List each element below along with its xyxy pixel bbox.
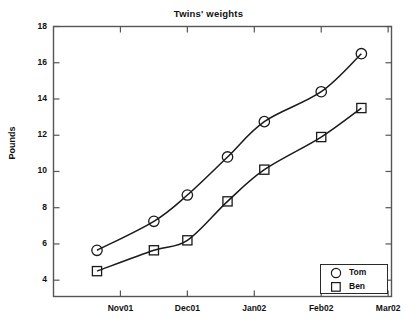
y-tick-label: 8: [25, 202, 47, 212]
x-tick-label: Dec01: [157, 303, 217, 313]
y-tick-label: 12: [25, 129, 47, 139]
data-point-tom-1: [149, 216, 159, 226]
y-tick-label: 14: [25, 93, 47, 103]
legend-item-ben[interactable]: Ben: [321, 280, 389, 294]
data-point-tom-6: [356, 48, 366, 58]
circle-marker-icon: [329, 267, 343, 279]
data-series-group: [92, 48, 367, 275]
y-tick-label: 16: [25, 57, 47, 67]
data-point-ben-0: [92, 267, 101, 276]
x-tick-label: Nov01: [90, 303, 150, 313]
data-point-tom-4: [259, 116, 269, 126]
data-point-tom-2: [182, 190, 192, 200]
legend-item-tom[interactable]: Tom: [321, 266, 389, 280]
square-marker-icon: [329, 281, 343, 293]
data-point-tom-0: [92, 245, 102, 255]
y-tick-label: 4: [25, 274, 47, 284]
data-point-ben-5: [317, 132, 326, 141]
data-point-ben-4: [260, 165, 269, 174]
legend-label-ben: Ben: [349, 281, 365, 291]
data-point-tom-5: [316, 87, 326, 97]
x-tick-label: Feb02: [291, 303, 351, 313]
y-tick-label: 10: [25, 165, 47, 175]
chart-figure: Twins' weights Pounds 4681012141618 Nov0…: [0, 0, 417, 329]
data-point-ben-2: [183, 236, 192, 245]
data-point-ben-1: [149, 246, 158, 255]
legend-label-tom: Tom: [349, 267, 366, 277]
chart-legend[interactable]: Tom Ben: [320, 264, 388, 294]
data-point-ben-6: [357, 103, 366, 112]
x-tick-label: Jan02: [224, 303, 284, 313]
y-tick-label: 18: [25, 21, 47, 31]
data-point-ben-3: [223, 197, 232, 206]
y-tick-label: 6: [25, 238, 47, 248]
data-point-tom-3: [222, 152, 232, 162]
x-tick-label: Mar02: [358, 303, 417, 313]
